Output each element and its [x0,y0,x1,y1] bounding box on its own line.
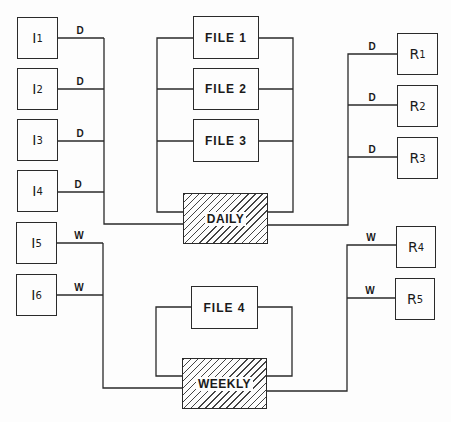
report-letter: R [407,291,417,307]
daily-process-box: DAILY [183,193,268,244]
file-box-2: FILE 2 [193,68,259,110]
link-label: D [76,25,83,36]
input-box-i1: I1 [17,17,58,59]
daily-label: DAILY [205,212,246,226]
link-label: W [74,282,83,293]
report-subscript: 1 [419,49,425,60]
file-box-4: FILE 4 [191,286,258,329]
report-box-r4: R4 [396,226,436,268]
link-label: D [76,128,83,139]
file-label: FILE 1 [205,31,247,45]
report-letter: R [409,98,419,114]
input-subscript: 6 [35,290,41,301]
input-box-i5: I5 [16,222,57,264]
input-box-i6: I6 [16,274,57,316]
input-box-i2: I2 [17,68,58,110]
input-subscript: 5 [35,238,41,249]
file-label: FILE 3 [205,134,247,148]
weekly-label: WEEKLY [196,377,253,391]
link-label: D [368,144,375,155]
file-box-1: FILE 1 [193,16,259,59]
input-subscript: 4 [36,186,42,197]
input-box-i4: I4 [17,170,58,212]
link-label: D [76,76,83,87]
link-label: D [368,41,375,52]
link-label: W [365,285,374,296]
report-box-r5: R5 [395,278,435,320]
file-label: FILE 4 [203,301,245,315]
report-subscript: 4 [418,242,424,253]
input-subscript: 2 [36,84,42,95]
file-label: FILE 2 [205,82,247,96]
input-subscript: 3 [36,135,42,146]
report-subscript: 3 [419,153,425,164]
report-box-r1: R1 [397,33,438,75]
link-label: W [366,232,375,243]
link-label: W [74,230,83,241]
input-subscript: 1 [36,33,42,44]
weekly-process-box: WEEKLY [182,358,267,409]
report-subscript: 5 [417,294,423,305]
processing-diagram: I1 I2 I3 I4 I5 I6 D D D D W W FILE 1 FIL… [0,0,451,422]
report-letter: R [409,46,419,62]
file-box-3: FILE 3 [193,119,259,162]
report-letter: R [409,150,419,166]
link-label: D [74,179,81,190]
report-subscript: 2 [419,101,425,112]
link-label: D [368,92,375,103]
report-box-r2: R2 [397,85,438,127]
report-letter: R [408,239,418,255]
report-box-r3: R3 [397,137,438,179]
input-box-i3: I3 [17,119,58,161]
